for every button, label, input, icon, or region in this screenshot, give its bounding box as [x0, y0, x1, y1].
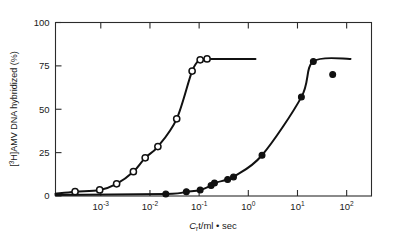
y-tick-label: 75	[39, 60, 50, 71]
y-axis-title: [3H]AMV DNA hybridized (%)	[8, 51, 19, 167]
svg-text:[3H]AMV DNA hybridized (%): [3H]AMV DNA hybridized (%)	[8, 51, 19, 167]
data-point-open-circles	[204, 56, 210, 62]
y-tick-label: 25	[39, 147, 50, 158]
x-tick-label: 100	[241, 200, 256, 212]
data-point-filled-circles	[330, 72, 336, 78]
data-curves	[56, 58, 351, 195]
data-point-open-circles	[130, 169, 136, 175]
data-point-open-circles	[72, 189, 78, 195]
data-point-filled-circles	[310, 59, 316, 65]
data-point-filled-circles	[225, 177, 231, 183]
chart-canvas: 10-310-210-1100101102 0255075100 Crt/ml …	[0, 0, 395, 246]
data-point-open-circles	[197, 57, 203, 63]
y-axis-title-rest: H]AMV DNA hybridized (%)	[9, 51, 19, 161]
data-markers	[72, 56, 336, 197]
x-tick-label: 10-2	[142, 200, 159, 212]
x-tick-label: 10-1	[191, 200, 208, 212]
data-point-open-circles	[142, 155, 148, 161]
x-tick-label: 10-3	[93, 200, 110, 212]
curve-open-circles	[56, 59, 256, 194]
y-tick-label: 50	[39, 104, 50, 115]
svg-text:Crt/ml • sec: Crt/ml • sec	[189, 220, 237, 232]
data-point-filled-circles	[259, 152, 265, 158]
data-point-filled-circles	[183, 189, 189, 195]
plot-frame	[56, 23, 372, 197]
curve-filled-circles	[56, 58, 351, 195]
data-point-open-circles	[97, 187, 103, 193]
x-axis-title-rest: t/ml • sec	[198, 220, 237, 231]
y-tick-label: 100	[34, 17, 50, 28]
y-tick-labels: 0255075100	[34, 17, 50, 202]
y-tick-label: 0	[44, 190, 49, 201]
data-point-filled-circles	[163, 191, 169, 197]
data-point-filled-circles	[231, 174, 237, 180]
x-tick-labels: 10-310-210-1100101102	[93, 200, 355, 212]
figure-container: 10-310-210-1100101102 0255075100 Crt/ml …	[0, 0, 395, 246]
data-point-open-circles	[114, 181, 120, 187]
axis-ticks	[56, 23, 347, 197]
x-tick-label: 101	[290, 200, 305, 212]
data-point-open-circles	[174, 116, 180, 122]
data-point-filled-circles	[298, 94, 304, 100]
data-point-open-circles	[155, 143, 161, 149]
data-point-filled-circles	[212, 180, 218, 186]
x-tick-label: 102	[340, 200, 355, 212]
data-point-filled-circles	[197, 187, 203, 193]
data-point-open-circles	[189, 68, 195, 74]
x-axis-title: Crt/ml • sec	[189, 220, 237, 232]
